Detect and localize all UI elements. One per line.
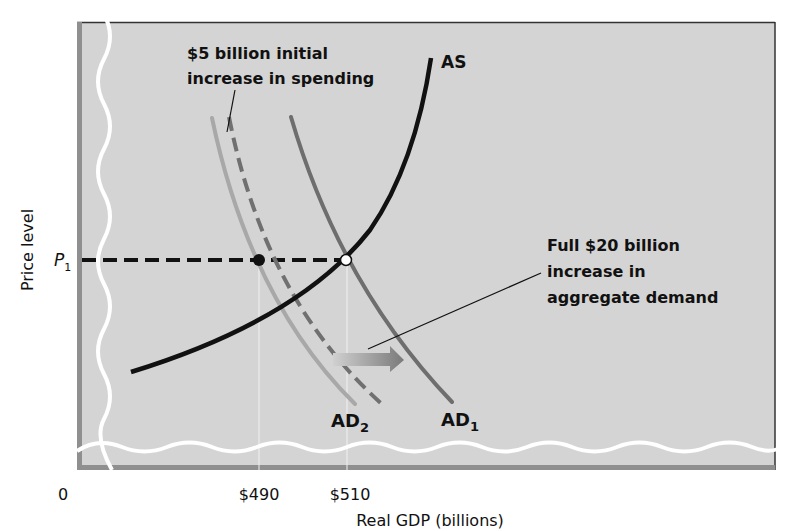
annotation-full-line3: aggregate demand: [547, 288, 718, 307]
as-label: AS: [441, 52, 466, 72]
y-axis-title: Price level: [18, 209, 37, 291]
point-490-p1: [253, 254, 265, 266]
annotation-full-line1: Full $20 billion: [547, 236, 680, 255]
x-tick-490: $490: [239, 485, 280, 504]
x-tick-510: $510: [330, 485, 371, 504]
y-axis-bar: [77, 22, 82, 470]
point-510-p1: [341, 255, 352, 266]
x-tick-0: 0: [58, 485, 68, 504]
p1-tick-label: P1: [54, 250, 71, 274]
x-axis-title: Real GDP (billions): [356, 511, 504, 530]
annotation-full-line2: increase in: [547, 262, 646, 281]
annotation-initial-line2: increase in spending: [187, 69, 374, 88]
annotation-initial-line1: $5 billion initial: [187, 44, 328, 63]
x-axis-bar: [77, 465, 775, 470]
aggregate-demand-multiplier-chart: $5 billion initial increase in spending …: [0, 0, 797, 531]
